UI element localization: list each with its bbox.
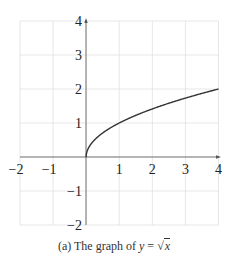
y-axis-arrow-icon	[84, 18, 87, 23]
y-tick-label: 4	[75, 14, 82, 29]
caption-sqrt-argument: x	[164, 238, 170, 254]
y-tick-label: −1	[67, 184, 82, 199]
y-tick-label: 2	[75, 82, 82, 97]
axes	[20, 18, 221, 225]
x-tick-label: 4	[215, 162, 222, 177]
x-tick-label: 3	[182, 162, 189, 177]
x-tick-label: −1	[42, 162, 57, 177]
y-tick-label: 1	[75, 116, 82, 131]
y-tick-label: 3	[75, 48, 82, 63]
figure-caption: (a) The graph of y = √x	[0, 238, 228, 254]
x-tick-label: 2	[149, 162, 156, 177]
tick-labels: −2−112344321−1−2	[9, 14, 222, 233]
x-tick-label: 1	[116, 162, 123, 177]
caption-equals: =	[144, 239, 157, 253]
x-tick-label: −2	[9, 162, 24, 177]
sqrt-symbol-icon: √	[157, 239, 164, 253]
y-tick-label: −2	[67, 218, 82, 233]
chart-svg: −2−112344321−1−2	[0, 0, 228, 267]
caption-prefix: (a) The graph of	[58, 239, 139, 253]
